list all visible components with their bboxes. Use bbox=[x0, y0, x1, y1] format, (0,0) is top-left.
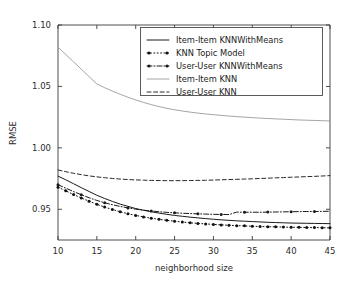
series-marker bbox=[126, 212, 129, 215]
series-marker bbox=[95, 203, 98, 206]
series-marker bbox=[243, 224, 246, 227]
series-marker bbox=[189, 221, 192, 224]
series-marker bbox=[158, 218, 161, 221]
series-marker bbox=[72, 193, 75, 196]
series-marker bbox=[196, 212, 199, 215]
x-tick-label: 40 bbox=[286, 246, 297, 256]
chart-canvas: 0.951.001.051.10 1015202530354045 neighb… bbox=[0, 0, 349, 281]
series-marker bbox=[290, 210, 293, 213]
series-marker bbox=[64, 189, 67, 192]
series-marker bbox=[88, 200, 91, 203]
series-marker bbox=[212, 223, 215, 226]
legend-label: KNN Topic Model bbox=[176, 48, 245, 58]
series-marker bbox=[80, 193, 83, 196]
series-marker bbox=[173, 211, 176, 214]
x-tick-label: 10 bbox=[53, 246, 64, 256]
legend-marker-sample bbox=[147, 64, 150, 67]
x-axis-tick-labels: 1015202530354045 bbox=[53, 246, 336, 256]
x-tick-label: 25 bbox=[169, 246, 180, 256]
legend-marker-sample bbox=[165, 51, 168, 54]
series-marker bbox=[251, 225, 254, 228]
x-tick-label: 30 bbox=[208, 246, 219, 256]
series-marker bbox=[290, 226, 293, 229]
legend-marker-sample bbox=[165, 64, 168, 67]
legend-label: Item-Item KNNWithMeans bbox=[176, 35, 283, 45]
series-marker bbox=[57, 183, 60, 186]
series-marker bbox=[313, 210, 316, 213]
series-marker bbox=[181, 221, 184, 224]
series-marker bbox=[103, 201, 106, 204]
series-marker bbox=[266, 225, 269, 228]
legend-label: User-User KNNWithMeans bbox=[176, 61, 283, 71]
legend-label: Item-Item KNN bbox=[176, 74, 237, 84]
y-tick-label: 1.00 bbox=[32, 143, 51, 153]
chart-figure: 0.951.001.051.10 1015202530354045 neighb… bbox=[0, 0, 349, 281]
series-marker bbox=[321, 226, 324, 229]
y-axis-tick-labels: 0.951.001.051.10 bbox=[32, 20, 51, 214]
series-marker bbox=[243, 211, 246, 214]
y-tick-label: 1.05 bbox=[32, 81, 51, 91]
series-marker bbox=[305, 226, 308, 229]
series-marker bbox=[142, 215, 145, 218]
x-tick-label: 15 bbox=[91, 246, 102, 256]
x-tick-label: 35 bbox=[247, 246, 258, 256]
series-marker bbox=[165, 219, 168, 222]
chart-legend: Item-Item KNNWithMeansKNN Topic ModelUse… bbox=[141, 28, 323, 98]
series-marker bbox=[196, 222, 199, 225]
series-marker bbox=[150, 217, 153, 220]
y-axis-label: RMSE bbox=[8, 121, 18, 145]
series-marker bbox=[297, 226, 300, 229]
series-marker bbox=[150, 210, 153, 213]
series-marker bbox=[220, 213, 223, 216]
series-marker bbox=[329, 226, 332, 229]
series-marker bbox=[220, 223, 223, 226]
series-marker bbox=[235, 224, 238, 227]
series-marker bbox=[119, 210, 122, 213]
series-marker bbox=[282, 226, 285, 229]
x-axis-label: neighborhood size bbox=[155, 263, 233, 273]
series-marker bbox=[126, 206, 129, 209]
series-marker bbox=[227, 224, 230, 227]
x-tick-label: 45 bbox=[325, 246, 336, 256]
series-marker bbox=[103, 206, 106, 209]
legend-label: User-User KNN bbox=[176, 87, 237, 97]
x-tick-label: 20 bbox=[130, 246, 141, 256]
series-marker bbox=[111, 208, 114, 211]
series-marker bbox=[266, 211, 269, 214]
series-marker bbox=[134, 214, 137, 217]
series-marker bbox=[259, 225, 262, 228]
series-marker bbox=[173, 220, 176, 223]
y-tick-label: 0.95 bbox=[32, 204, 51, 214]
y-tick-label: 1.10 bbox=[32, 20, 51, 30]
series-marker bbox=[274, 225, 277, 228]
legend-marker-sample bbox=[147, 51, 150, 54]
series-marker bbox=[80, 196, 83, 199]
series-marker bbox=[204, 222, 207, 225]
series-marker bbox=[313, 226, 316, 229]
